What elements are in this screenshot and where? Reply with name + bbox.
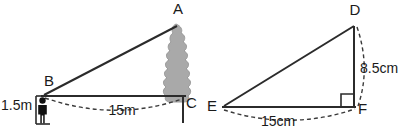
dimension-label-base-distance: 15m: [108, 102, 135, 118]
person-body-shape: [38, 105, 47, 124]
right-angle-marker-F: [341, 94, 354, 107]
person-head: [39, 97, 45, 103]
vertex-label-D: D: [350, 1, 361, 18]
left-diagram-group: A B C 1.5m 15m: [1, 0, 197, 124]
geometry-figure: A B C 1.5m 15m D E F 8: [0, 0, 413, 135]
figure-canvas: A B C 1.5m 15m D E F 8: [0, 0, 413, 135]
right-diagram-group: D E F 8.5cm 15cm: [207, 1, 398, 129]
vertex-label-A: A: [173, 0, 183, 17]
vertex-label-B: B: [44, 72, 54, 89]
dimension-label-height-df: 8.5cm: [360, 60, 398, 76]
hypotenuse-line-ED: [224, 26, 354, 106]
sight-line-BA: [44, 26, 177, 95]
vertex-label-E: E: [207, 97, 217, 114]
vertex-label-C: C: [186, 94, 197, 111]
observer-person-icon: [38, 97, 47, 123]
dimension-label-eye-height: 1.5m: [1, 97, 32, 113]
cypress-tree-icon: [163, 24, 190, 102]
dimension-label-base-ef: 15cm: [261, 113, 295, 129]
tree-canopy-shape: [163, 24, 190, 102]
vertex-label-F: F: [358, 100, 367, 117]
